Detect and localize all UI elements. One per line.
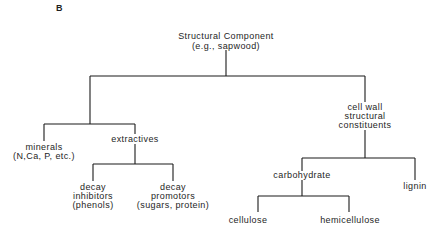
node-text: carbohydrate [262,171,342,180]
node-text: Structural Component [166,32,286,41]
node-cell-wall: cell wall structural constituents [325,103,405,130]
node-text: (phenols) [58,201,128,210]
node-text: hemicellulose [305,216,395,225]
node-decay-promotors: decay promotors (sugars, protein) [128,183,218,210]
node-decay-inhibitors: decay inhibitors (phenols) [58,183,128,210]
node-structural-component: Structural Component (e.g., sapwood) [166,32,286,51]
node-text: (sugars, protein) [128,201,218,210]
node-cellulose: cellulose [218,216,278,225]
node-carbohydrate: carbohydrate [262,171,342,180]
node-text: lignin [395,182,435,191]
node-hemicellulose: hemicellulose [305,216,395,225]
node-extractives: extractives [100,135,170,144]
node-text: constituents [325,121,405,130]
node-text: (e.g., sapwood) [166,42,286,51]
node-text: (N,Ca, P, etc.) [4,152,84,161]
node-lignin: lignin [395,182,435,191]
node-minerals: minerals (N,Ca, P, etc.) [4,143,84,161]
node-text: extractives [100,135,170,144]
node-text: cellulose [218,216,278,225]
